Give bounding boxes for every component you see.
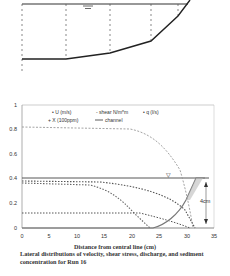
legend: • U (m/s) - shear N/m*m • q (l/s) + X (1…: [48, 109, 159, 123]
svg-text:30: 30: [184, 233, 190, 239]
svg-text:• q (l/s): • q (l/s): [143, 109, 159, 115]
svg-text:0: 0: [20, 233, 23, 239]
svg-text:0.4: 0.4: [9, 175, 17, 181]
svg-text:• U (m/s): • U (m/s): [52, 109, 72, 115]
svg-text:25: 25: [156, 233, 162, 239]
y-axis-ticks: 1 0.8 0.6 0.4 0.2 0: [9, 102, 17, 231]
svg-text:0.2: 0.2: [9, 200, 17, 206]
svg-text:0: 0: [14, 225, 17, 231]
svg-text:+ X (100ppm): + X (100ppm): [48, 117, 79, 123]
figure: 1 0.8 0.6 0.4 0.2 0 0 5 10 15 20 25 30 3…: [0, 0, 230, 245]
svg-text:20: 20: [129, 233, 135, 239]
x-axis-label: Distance from central line (cm): [0, 243, 230, 250]
svg-text:0.6: 0.6: [9, 151, 17, 157]
svg-text:channel: channel: [105, 117, 123, 123]
figure-caption: Lateral distributions of velocity, shear…: [20, 250, 230, 266]
x-axis-ticks: 0 5 10 15 20 25 30 35: [20, 233, 217, 239]
depth-annotation: 4cm: [200, 198, 211, 204]
svg-text:35: 35: [211, 233, 217, 239]
chart: 1 0.8 0.6 0.4 0.2 0 0 5 10 15 20 25 30 3…: [9, 102, 217, 239]
svg-text:5: 5: [47, 233, 50, 239]
svg-text:1: 1: [14, 102, 17, 108]
cross-section-diagram: [22, 0, 190, 72]
water-level-symbol: ▽: [166, 172, 171, 178]
svg-text:- shear N/m*m: - shear N/m*m: [96, 109, 128, 115]
svg-text:0.8: 0.8: [9, 126, 17, 132]
svg-text:10: 10: [74, 233, 80, 239]
svg-text:15: 15: [101, 233, 107, 239]
